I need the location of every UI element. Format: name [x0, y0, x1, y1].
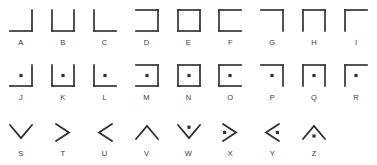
cipher-letter-label: G [269, 39, 275, 47]
cipher-cell-p: P [251, 61, 293, 109]
pigpen-grid-glyph-icon [251, 61, 293, 91]
cipher-letter-label: P [270, 94, 275, 102]
cipher-letter-label: H [311, 39, 317, 47]
cipher-cell-a: A [0, 6, 42, 54]
cipher-cell-c: C [84, 6, 126, 54]
cipher-letter-label: D [144, 39, 150, 47]
pigpen-chevron-glyph-icon [42, 117, 84, 147]
cipher-cell-b: B [42, 6, 84, 54]
pigpen-chevron-glyph-icon [126, 117, 168, 147]
cipher-letter-label: W [185, 150, 192, 158]
cipher-cell-e: E [168, 6, 210, 54]
cipher-cell-u: U [84, 117, 126, 165]
pigpen-chevron-glyph-icon [84, 117, 126, 147]
cipher-letter-label: U [102, 150, 108, 158]
pigpen-grid-glyph-icon [293, 61, 335, 91]
pigpen-grid-glyph-icon [209, 6, 251, 36]
cipher-letter-label: L [102, 94, 106, 102]
cipher-cell-i: I [335, 6, 377, 54]
cipher-cell-w: W [168, 117, 210, 165]
cipher-cell-s: S [0, 117, 42, 165]
pigpen-grid-glyph-icon [168, 6, 210, 36]
pigpen-grid-glyph-icon [0, 61, 42, 91]
cipher-letter-label: V [144, 150, 149, 158]
pigpen-grid-glyph-icon [126, 61, 168, 91]
cipher-letter-label: X [228, 150, 233, 158]
cipher-letter-label: T [60, 150, 65, 158]
cipher-letter-label: S [18, 150, 23, 158]
cipher-letter-label: O [227, 94, 233, 102]
pigpen-chevron-glyph-icon [0, 117, 42, 147]
cipher-row-grid-dotted: JKLMNOPQR [0, 61, 377, 109]
cipher-cell-z: Z [293, 117, 335, 165]
cipher-letter-label: Y [270, 150, 275, 158]
cipher-cell-v: V [126, 117, 168, 165]
pigpen-grid-glyph-icon [335, 6, 377, 36]
pigpen-grid-glyph-icon [126, 6, 168, 36]
cipher-letter-label: K [60, 94, 65, 102]
pigpen-grid-glyph-icon [84, 6, 126, 36]
pigpen-grid-glyph-icon [0, 6, 42, 36]
cipher-cell-empty [335, 117, 377, 165]
pigpen-grid-glyph-icon [209, 61, 251, 91]
cipher-cell-l: L [84, 61, 126, 109]
cipher-cell-f: F [209, 6, 251, 54]
cipher-cell-o: O [209, 61, 251, 109]
cipher-letter-label: F [228, 39, 233, 47]
cipher-cell-g: G [251, 6, 293, 54]
cipher-letter-label: R [353, 94, 359, 102]
cipher-letter-label: Z [312, 150, 317, 158]
cipher-row-chevrons: STUVWXYZ [0, 117, 377, 165]
cipher-cell-t: T [42, 117, 84, 165]
cipher-cell-h: H [293, 6, 335, 54]
cipher-letter-label: C [102, 39, 108, 47]
cipher-letter-label: I [355, 39, 357, 47]
cipher-letter-label: Q [311, 94, 317, 102]
cipher-cell-k: K [42, 61, 84, 109]
pigpen-chevron-glyph-icon [293, 117, 335, 147]
cipher-letter-label: M [143, 94, 150, 102]
cipher-letter-label: A [18, 39, 23, 47]
cipher-letter-label: E [186, 39, 191, 47]
cipher-cell-y: Y [251, 117, 293, 165]
cipher-cell-x: X [209, 117, 251, 165]
cipher-letter-label: B [60, 39, 65, 47]
cipher-cell-m: M [126, 61, 168, 109]
pigpen-grid-glyph-icon [335, 61, 377, 91]
pigpen-grid-glyph-icon [251, 6, 293, 36]
cipher-cell-j: J [0, 61, 42, 109]
cipher-letter-label: N [186, 94, 192, 102]
pigpen-cipher-chart: ABCDEFGHI JKLMNOPQR STUVWXYZ [0, 0, 377, 165]
pigpen-chevron-glyph-icon [168, 117, 210, 147]
pigpen-chevron-glyph-icon [251, 117, 293, 147]
pigpen-grid-glyph-icon [42, 61, 84, 91]
cipher-cell-r: R [335, 61, 377, 109]
cipher-row-grid-plain: ABCDEFGHI [0, 6, 377, 54]
pigpen-grid-glyph-icon [168, 61, 210, 91]
cipher-letter-label: J [19, 94, 23, 102]
cipher-cell-q: Q [293, 61, 335, 109]
cipher-cell-n: N [168, 61, 210, 109]
cipher-cell-d: D [126, 6, 168, 54]
pigpen-chevron-glyph-icon [209, 117, 251, 147]
pigpen-grid-glyph-icon [293, 6, 335, 36]
pigpen-grid-glyph-icon [84, 61, 126, 91]
pigpen-grid-glyph-icon [42, 6, 84, 36]
